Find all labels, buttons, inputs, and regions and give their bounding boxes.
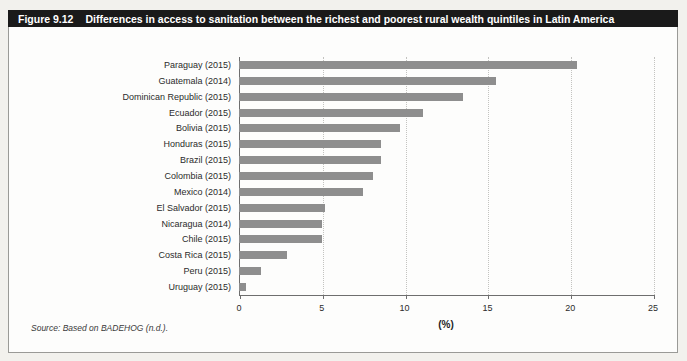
category-label: Mexico (2014)	[9, 187, 231, 197]
category-label: Paraguay (2015)	[9, 60, 231, 70]
bar-row	[239, 250, 653, 260]
x-tick-label: 0	[236, 303, 241, 313]
bar	[239, 140, 381, 148]
category-label: Chile (2015)	[9, 234, 231, 244]
category-label: Dominican Republic (2015)	[9, 92, 231, 102]
tick-mark	[323, 295, 324, 299]
figure-title: Differences in access to sanitation betw…	[85, 13, 614, 25]
tick-mark	[654, 295, 655, 299]
bar	[239, 109, 423, 117]
gridline	[654, 57, 655, 295]
bar	[239, 124, 400, 132]
bar	[239, 267, 261, 275]
bar-row	[239, 123, 653, 133]
category-label: Colombia (2015)	[9, 171, 231, 181]
bar-row	[239, 139, 653, 149]
bar-row	[239, 92, 653, 102]
bar-row	[239, 155, 653, 165]
bar	[239, 77, 496, 85]
tick-mark	[488, 295, 489, 299]
category-label: Honduras (2015)	[9, 139, 231, 149]
category-label: Bolivia (2015)	[9, 123, 231, 133]
source-note: Source: Based on BADEHOG (n.d.).	[31, 323, 168, 333]
tick-mark	[571, 295, 572, 299]
x-tick-label: 25	[648, 303, 658, 313]
bar-rows	[239, 57, 653, 295]
tick-mark	[240, 295, 241, 299]
x-tick-label: 15	[482, 303, 492, 313]
x-tick-label: 20	[565, 303, 575, 313]
figure-9-12: Figure 9.12 Differences in access to san…	[8, 10, 678, 353]
bar	[239, 93, 463, 101]
bar	[239, 235, 322, 243]
category-label: Brazil (2015)	[9, 155, 231, 165]
category-labels: Paraguay (2015)Guatemala (2014)Dominican…	[9, 57, 231, 295]
x-axis-title: (%)	[239, 319, 653, 330]
category-label: Guatemala (2014)	[9, 76, 231, 86]
bar-row	[239, 203, 653, 213]
figure-body: Paraguay (2015)Guatemala (2014)Dominican…	[8, 27, 678, 353]
bar-row	[239, 282, 653, 292]
bar	[239, 220, 322, 228]
bar-row	[239, 187, 653, 197]
bar	[239, 61, 577, 69]
bar-row	[239, 171, 653, 181]
bar	[239, 156, 381, 164]
category-label: Ecuador (2015)	[9, 108, 231, 118]
bar	[239, 172, 373, 180]
tick-mark	[406, 295, 407, 299]
bar-row	[239, 266, 653, 276]
bar-row	[239, 234, 653, 244]
bar-row	[239, 60, 653, 70]
category-label: Nicaragua (2014)	[9, 219, 231, 229]
x-axis-ticks: 0510152025	[239, 303, 653, 315]
bar	[239, 188, 363, 196]
x-tick-label: 5	[319, 303, 324, 313]
figure-number: Figure 9.12	[18, 13, 73, 25]
category-label: Peru (2015)	[9, 266, 231, 276]
category-label: Uruguay (2015)	[9, 282, 231, 292]
category-label: El Salvador (2015)	[9, 203, 231, 213]
x-tick-label: 10	[400, 303, 410, 313]
bar-row	[239, 76, 653, 86]
bar	[239, 283, 246, 291]
bar-row	[239, 108, 653, 118]
figure-header: Figure 9.12 Differences in access to san…	[8, 10, 678, 27]
bar	[239, 251, 287, 259]
category-label: Costa Rica (2015)	[9, 250, 231, 260]
bar	[239, 204, 325, 212]
bar-row	[239, 219, 653, 229]
